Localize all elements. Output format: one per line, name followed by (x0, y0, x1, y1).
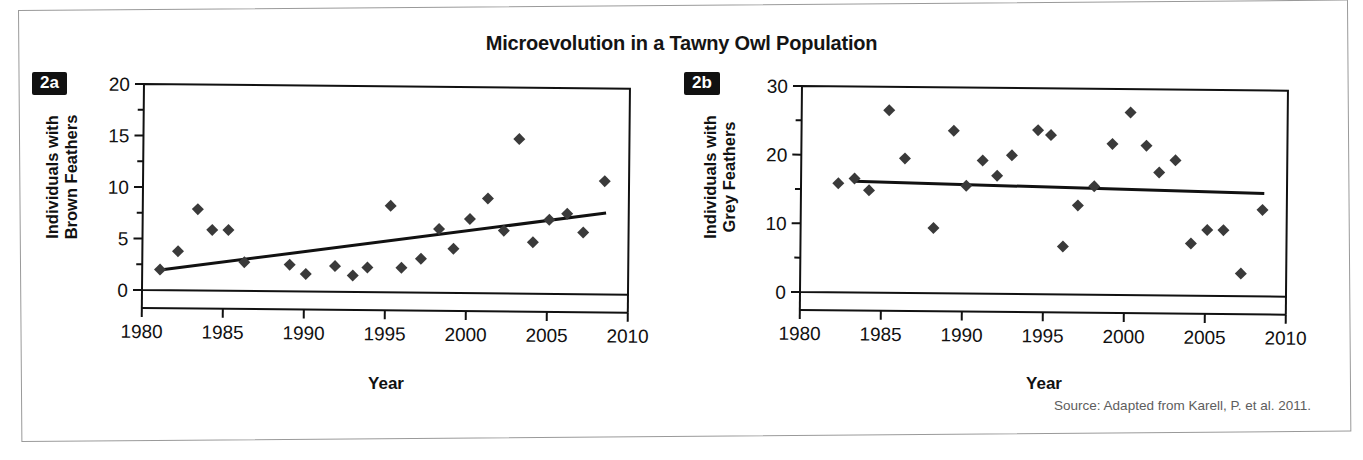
svg-text:1980: 1980 (778, 323, 820, 344)
svg-text:1980: 1980 (120, 321, 162, 342)
svg-text:1995: 1995 (363, 323, 405, 344)
source-citation: Source: Adapted from Karell, P. et al. 2… (1054, 398, 1311, 413)
y-axis-title-2b: Individuals with Grey Feathers (701, 77, 739, 277)
panel-label-2b: 2b (684, 72, 720, 95)
svg-text:1985: 1985 (201, 322, 243, 343)
svg-text:1995: 1995 (1021, 325, 1063, 346)
y-axis-title-2a-line1: Individuals with (43, 115, 61, 239)
svg-text:10: 10 (765, 213, 786, 234)
svg-text:1990: 1990 (282, 322, 324, 343)
chart-panel-2b: 2b Individuals with Grey Feathers 010203… (672, 62, 1332, 382)
svg-text:2005: 2005 (1183, 327, 1225, 348)
y-axis-title-2b-line2: Grey Feathers (720, 121, 738, 232)
panel-label-2a: 2a (32, 72, 67, 95)
page-title: Microevolution in a Tawny Owl Population (0, 32, 1363, 55)
figure-root: Microevolution in a Tawny Owl Population… (0, 0, 1363, 460)
svg-text:2000: 2000 (444, 324, 486, 345)
svg-text:2005: 2005 (525, 325, 567, 346)
scatter-plot-2a: 051015201980198519901995200020052010 (20, 62, 680, 362)
svg-text:15: 15 (108, 125, 129, 146)
svg-text:1985: 1985 (859, 324, 901, 345)
y-axis-title-2a: Individuals with Brown Feathers (43, 77, 81, 277)
svg-text:20: 20 (109, 74, 130, 95)
svg-text:30: 30 (767, 76, 788, 97)
svg-text:2010: 2010 (606, 325, 648, 346)
svg-text:2000: 2000 (1102, 326, 1144, 347)
svg-text:2010: 2010 (1264, 327, 1306, 348)
svg-text:5: 5 (118, 228, 129, 249)
svg-text:0: 0 (117, 280, 128, 301)
svg-text:10: 10 (108, 177, 129, 198)
chart-panel-2a: 2a Individuals with Brown Feathers 05101… (20, 62, 680, 382)
svg-text:20: 20 (766, 144, 787, 165)
svg-text:1990: 1990 (940, 324, 982, 345)
x-axis-title-2a: Year (20, 374, 716, 394)
y-axis-title-2b-line1: Individuals with (701, 115, 719, 239)
scatter-plot-2b: 01020301980198519901995200020052010 (672, 62, 1332, 362)
x-axis-title-2b: Year (672, 374, 1363, 394)
y-axis-title-2a-line2: Brown Feathers (62, 115, 80, 240)
svg-text:0: 0 (775, 282, 786, 303)
